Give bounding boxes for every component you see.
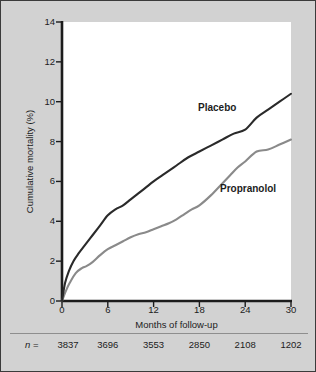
series-label-propranolol: Propranolol: [220, 183, 276, 194]
n-at-risk-value: 3696: [88, 339, 128, 350]
y-tick-label: 12: [29, 57, 55, 67]
x-tick-label: 0: [47, 304, 77, 315]
x-tick-label: 30: [276, 304, 306, 315]
y-tick-label: 2: [29, 256, 55, 266]
n-at-risk-value: 3837: [48, 339, 88, 350]
n-at-risk-value: 1202: [271, 339, 311, 350]
series-label-placebo: Placebo: [198, 102, 236, 113]
x-tick-label: 12: [139, 304, 169, 315]
y-axis-title: Cumulative mortality (%): [24, 67, 35, 257]
n-at-risk-row: n = 383736963553285021081202: [1, 339, 316, 357]
x-tick-label: 24: [230, 304, 260, 315]
y-tick-label: 14: [29, 17, 55, 27]
figure-container: 02468101214 0612182430 Months of follow-…: [0, 0, 316, 372]
n-at-risk-value: 2108: [225, 339, 265, 350]
n-at-risk-label: n =: [25, 339, 38, 350]
x-tick-label: 18: [184, 304, 214, 315]
n-at-risk-value: 3553: [134, 339, 174, 350]
series-line-placebo: [62, 94, 291, 301]
x-axis-title: Months of follow-up: [62, 319, 291, 330]
series-line-propranolol: [62, 140, 291, 301]
divider-line: [10, 333, 308, 334]
n-at-risk-value: 2850: [179, 339, 219, 350]
x-tick-label: 6: [93, 304, 123, 315]
